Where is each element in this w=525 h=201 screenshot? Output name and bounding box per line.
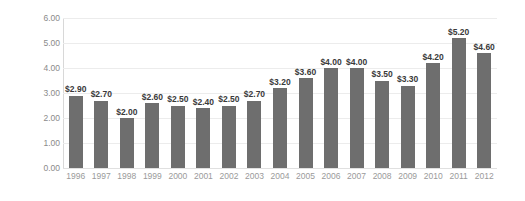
bar-slot[interactable]: $3.30 <box>395 18 421 168</box>
y-axis-tick-label: 6.00 <box>32 14 60 23</box>
bar-value-label: $3.30 <box>397 75 418 84</box>
bar-slot[interactable]: $4.20 <box>420 18 446 168</box>
bar[interactable] <box>120 118 134 168</box>
bar-slot[interactable]: $4.00 <box>344 18 370 168</box>
bar-slot[interactable]: $2.00 <box>114 18 140 168</box>
bar[interactable] <box>426 63 440 168</box>
bar[interactable] <box>222 106 236 169</box>
y-axis-tick-label: 4.00 <box>32 64 60 73</box>
bar[interactable] <box>273 88 287 168</box>
bar-slot[interactable]: $2.70 <box>89 18 115 168</box>
bar-value-label: $4.00 <box>320 58 341 67</box>
y-axis-tick-label: 5.00 <box>32 39 60 48</box>
bar-value-label: $4.20 <box>423 53 444 62</box>
y-axis-title: $BILLIONS <box>14 0 32 36</box>
bar-value-label: $2.70 <box>91 90 112 99</box>
bar-value-label: $2.40 <box>193 98 214 107</box>
bar-slot[interactable]: $3.50 <box>369 18 395 168</box>
bar[interactable] <box>94 101 108 169</box>
bar[interactable] <box>375 81 389 169</box>
bar-value-label: $2.50 <box>218 95 239 104</box>
x-axis-tick-label: 2012 <box>471 172 497 181</box>
bar-value-label: $2.60 <box>142 93 163 102</box>
gridline <box>63 168 497 169</box>
bar[interactable] <box>145 103 159 168</box>
bar-series: $2.90$2.70$2.00$2.60$2.50$2.40$2.50$2.70… <box>63 18 497 168</box>
bar-slot[interactable]: $5.20 <box>446 18 472 168</box>
bar-slot[interactable]: $2.50 <box>216 18 242 168</box>
bar-value-label: $3.60 <box>295 68 316 77</box>
x-axis-tick-labels: 1996199719981999200020012002200320042005… <box>63 172 497 188</box>
bar-value-label: $2.50 <box>167 95 188 104</box>
y-axis-tick-label: 1.00 <box>32 139 60 148</box>
bar-value-label: $5.20 <box>448 28 469 37</box>
x-axis-tick-label: 2000 <box>165 172 191 181</box>
bar-value-label: $2.90 <box>65 85 86 94</box>
bar-value-label: $2.70 <box>244 90 265 99</box>
bar-slot[interactable]: $2.90 <box>63 18 89 168</box>
y-axis-tick-label: 0.00 <box>32 164 60 173</box>
x-axis-tick-label: 1999 <box>140 172 166 181</box>
bar[interactable] <box>196 108 210 168</box>
x-axis-tick-label: 2008 <box>369 172 395 181</box>
x-axis-tick-label: 2009 <box>395 172 421 181</box>
bar[interactable] <box>247 101 261 169</box>
bar-slot[interactable]: $2.50 <box>165 18 191 168</box>
x-axis-tick-label: 1996 <box>63 172 89 181</box>
bar-value-label: $3.50 <box>371 70 392 79</box>
bar[interactable] <box>299 78 313 168</box>
plot-area: $2.90$2.70$2.00$2.60$2.50$2.40$2.50$2.70… <box>63 18 497 168</box>
bar-value-label: $2.00 <box>116 108 137 117</box>
x-axis-tick-label: 2010 <box>420 172 446 181</box>
bar-slot[interactable]: $3.20 <box>267 18 293 168</box>
bar-slot[interactable]: $2.40 <box>191 18 217 168</box>
bar[interactable] <box>350 68 364 168</box>
bar-slot[interactable]: $4.00 <box>318 18 344 168</box>
bar-slot[interactable]: $3.60 <box>293 18 319 168</box>
x-axis-tick-label: 2004 <box>267 172 293 181</box>
bar-value-label: $4.60 <box>474 43 495 52</box>
bar-value-label: $3.20 <box>269 78 290 87</box>
bar[interactable] <box>171 106 185 169</box>
x-axis-tick-label: 2003 <box>242 172 268 181</box>
x-axis-tick-label: 1997 <box>89 172 115 181</box>
x-axis-tick-label: 2005 <box>293 172 319 181</box>
x-axis-tick-label: 2006 <box>318 172 344 181</box>
bar[interactable] <box>401 86 415 169</box>
bar-slot[interactable]: $4.60 <box>471 18 497 168</box>
y-axis-tick-label: 2.00 <box>32 114 60 123</box>
bar-value-label: $4.00 <box>346 58 367 67</box>
bar-slot[interactable]: $2.70 <box>242 18 268 168</box>
y-axis-tick-labels: 0.001.002.003.004.005.006.00 <box>32 18 60 168</box>
x-axis-tick-label: 2007 <box>344 172 370 181</box>
x-axis-tick-label: 2002 <box>216 172 242 181</box>
y-axis-tick-label: 3.00 <box>32 89 60 98</box>
x-axis-tick-label: 1998 <box>114 172 140 181</box>
x-axis-tick-label: 2001 <box>191 172 217 181</box>
bar[interactable] <box>324 68 338 168</box>
bar[interactable] <box>477 53 491 168</box>
bar[interactable] <box>452 38 466 168</box>
bar[interactable] <box>69 96 83 169</box>
bar-chart: $BILLIONS 0.001.002.003.004.005.006.00 $… <box>0 0 525 201</box>
x-axis-tick-label: 2011 <box>446 172 472 181</box>
bar-slot[interactable]: $2.60 <box>140 18 166 168</box>
